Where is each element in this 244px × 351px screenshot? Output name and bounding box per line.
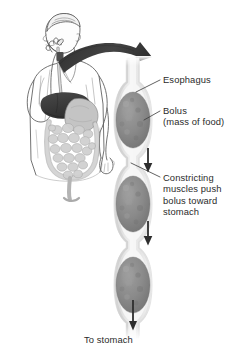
- label-to-stomach: To stomach: [84, 334, 133, 345]
- bolus-upper: [116, 92, 150, 148]
- esophagus-tube: [112, 56, 154, 340]
- bolus-middle: [116, 176, 150, 232]
- label-constricting-muscles: Constricting muscles push bolus toward s…: [163, 172, 222, 218]
- label-bolus-subtitle: (mass of food): [163, 116, 224, 127]
- label-bolus: Bolus: [163, 105, 187, 116]
- rectum: [69, 178, 70, 200]
- label-esophagus: Esophagus: [163, 74, 211, 85]
